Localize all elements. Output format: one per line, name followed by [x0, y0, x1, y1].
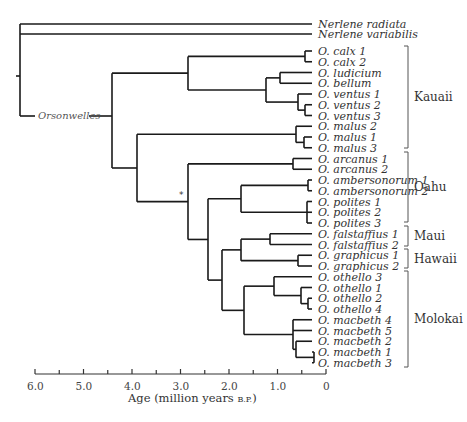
time-axis: 6.05.04.03.02.01.00 [27, 369, 330, 392]
tick-label: 1.0 [270, 380, 287, 392]
tree-branches [16, 24, 314, 363]
phylogenetic-tree: Nerlene radiataNerlene variabilisO. calx… [0, 0, 467, 422]
axis-title-main: Age (million years [127, 391, 237, 405]
island-label: Maui [414, 229, 445, 243]
support-marker: * [179, 190, 184, 200]
genus-label: Orsonwelles [38, 110, 101, 121]
island-label: Oahu [414, 180, 447, 194]
tick-label: 0 [323, 380, 330, 392]
axis-title: Age (million years B.P.) [127, 391, 257, 405]
axis-title-close: ) [252, 391, 257, 405]
island-brackets: KauaiiOahuMauiHawaiiMolokai [404, 46, 463, 367]
island-label: Molokai [414, 312, 463, 326]
leaf-labels: Nerlene radiataNerlene variabilisO. calx… [317, 18, 428, 370]
axis-title-bp: B.P. [237, 395, 252, 404]
leaf-label: O. macbeth 3 [318, 357, 392, 370]
island-label: Kauaii [414, 90, 453, 104]
island-label: Hawaii [414, 252, 457, 266]
outgroup-label: Nerlene variabilis [317, 28, 418, 41]
tick-label: 6.0 [27, 380, 44, 392]
tick-label: 5.0 [76, 380, 93, 392]
